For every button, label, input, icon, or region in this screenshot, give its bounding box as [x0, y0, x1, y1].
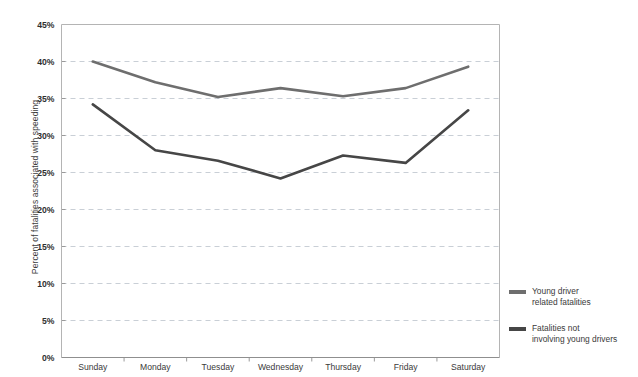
svg-text:20%: 20%	[37, 205, 55, 215]
legend-item-fatalities-not-involving-young-drivers: Fatalities not involving young drivers	[509, 323, 637, 344]
svg-text:5%: 5%	[42, 316, 55, 326]
legend-item-young-driver-related-fatalities: Young driver related fatalities	[509, 286, 637, 307]
svg-text:Friday: Friday	[394, 362, 419, 372]
svg-text:Saturday: Saturday	[451, 362, 486, 372]
legend-color-swatch-series-1	[509, 290, 526, 294]
x-axis-tick-labels: SundayMondayTuesdayWednesdayThursdayFrid…	[78, 362, 486, 372]
series-line-1	[93, 62, 468, 98]
svg-text:0%: 0%	[42, 353, 55, 363]
svg-text:Wednesday: Wednesday	[258, 362, 304, 372]
chart-legend: Young driver related fatalities Fataliti…	[509, 286, 637, 360]
svg-text:45%: 45%	[37, 20, 55, 30]
svg-text:35%: 35%	[37, 94, 55, 104]
line-chart: Percent of fatalities associated with sp…	[0, 0, 638, 377]
svg-text:Monday: Monday	[140, 362, 171, 372]
svg-text:30%: 30%	[37, 131, 55, 141]
legend-label-series-2: Fatalities not involving young drivers	[532, 323, 617, 344]
svg-text:40%: 40%	[37, 57, 55, 67]
svg-text:Sunday: Sunday	[78, 362, 108, 372]
data-series-lines	[93, 62, 468, 179]
svg-text:Tuesday: Tuesday	[202, 362, 235, 372]
legend-color-swatch-series-2	[509, 327, 526, 331]
plot-frame	[62, 25, 500, 358]
svg-text:Thursday: Thursday	[325, 362, 362, 372]
series-line-2	[93, 104, 468, 178]
svg-text:10%: 10%	[37, 279, 55, 289]
svg-text:25%: 25%	[37, 168, 55, 178]
legend-label-series-1: Young driver related fatalities	[532, 286, 591, 307]
gridlines	[62, 62, 500, 321]
svg-text:15%: 15%	[37, 242, 55, 252]
